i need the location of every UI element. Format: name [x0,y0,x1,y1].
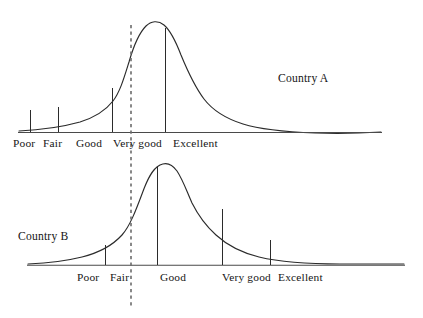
country-a-label-fair: Fair [43,137,62,149]
country-b-label-very-good: Very good [222,271,271,283]
country-a-label-very-good: Very good [113,137,162,149]
country-a-series-label: Country A [278,72,329,85]
country-b-label-poor: Poor [77,271,99,283]
country-b-label-excellent: Excellent [278,271,323,283]
country-b-label-good: Good [160,271,186,283]
country-b-curve [28,164,404,264]
distribution-comparison-figure: Poor Fair Good Very good Excellent Count… [0,0,423,318]
country-a-label-good: Good [76,137,102,149]
chart-country-b [27,164,405,266]
country-a-label-poor: Poor [13,137,35,149]
country-b-label-fair: Fair [110,271,129,283]
country-a-label-excellent: Excellent [173,137,218,149]
country-b-series-label: Country B [18,230,69,243]
figure-canvas: Poor Fair Good Very good Excellent Count… [0,0,423,318]
